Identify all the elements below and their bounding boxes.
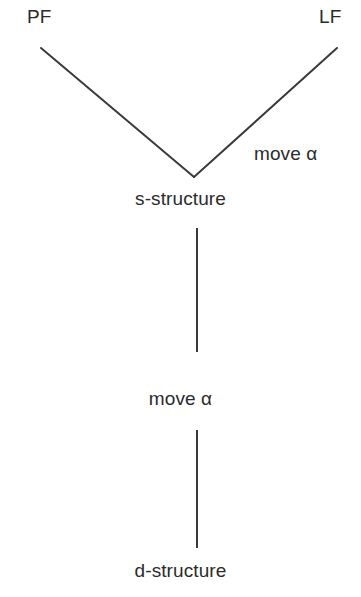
node-label-s-structure: s-structure [0,189,361,209]
node-label-d-structure: d-structure [0,561,361,581]
edge-label-move-alpha-right: move α [254,144,317,164]
node-label-lf: LF [319,7,341,27]
diagram-canvas: PF LF move α s-structure move α d-struct… [0,0,361,597]
node-label-pf: PF [27,7,51,27]
diagram-edges-layer [0,0,361,597]
edge-label-move-alpha-middle: move α [0,389,361,409]
edge-s-structure-to-pf [41,48,194,177]
